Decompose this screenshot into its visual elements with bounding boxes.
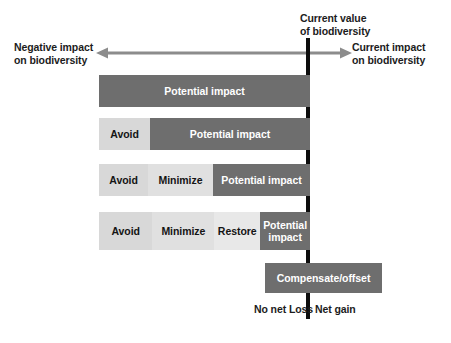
double-headed-arrow-icon: [96, 44, 352, 62]
current-impact-label: Current impact on biodiversity: [352, 41, 447, 67]
segment-potential-impact: Potential impact: [99, 75, 310, 107]
current-value-label-line1: Current value: [300, 12, 370, 25]
segment-minimize: Minimize: [148, 164, 213, 196]
negative-impact-label-line1: Negative impact: [14, 41, 100, 54]
current-impact-label-line2: on biodiversity: [352, 54, 447, 67]
current-value-label: Current value of biodiversity: [300, 12, 370, 38]
segment-avoid: Avoid: [99, 212, 152, 250]
bar-row-4: Avoid Minimize Restore Potential impact: [99, 212, 310, 250]
net-gain-label: Net gain: [315, 303, 356, 315]
bar-row-3: Avoid Minimize Potential impact: [99, 164, 310, 196]
negative-impact-label-line2: on biodiversity: [14, 54, 100, 67]
segment-minimize: Minimize: [152, 212, 214, 250]
segment-restore: Restore: [214, 212, 260, 250]
segment-avoid: Avoid: [99, 164, 148, 196]
bar-row-1: Potential impact: [99, 75, 310, 107]
negative-impact-label: Negative impact on biodiversity: [14, 41, 100, 67]
current-impact-label-line1: Current impact: [352, 41, 447, 54]
no-net-loss-label: No net Loss: [254, 303, 313, 315]
segment-compensate-offset: Compensate/offset: [265, 263, 382, 293]
segment-potential-impact: Potential impact: [213, 164, 310, 196]
segment-potential-impact: Potential impact: [260, 212, 310, 250]
current-value-label-line2: of biodiversity: [300, 25, 370, 38]
mitigation-hierarchy-diagram: Current value of biodiversity Negative i…: [0, 0, 451, 343]
bar-row-2: Avoid Potential impact: [99, 118, 310, 150]
segment-potential-impact: Potential impact: [150, 118, 310, 150]
segment-avoid: Avoid: [99, 118, 150, 150]
